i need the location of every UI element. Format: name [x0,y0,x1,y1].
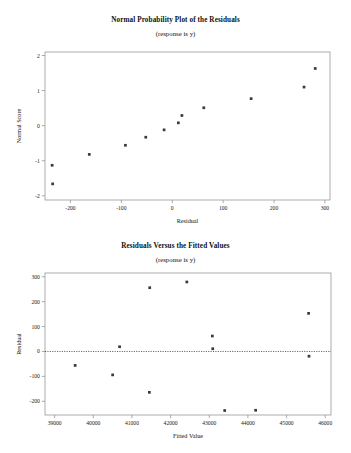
data-point-marker [118,345,121,348]
data-point-marker [124,144,127,147]
residual-plot-canvas: 3900040000410004200043000440004500046000… [0,230,351,453]
y-axis-tick-label: -100 [30,373,40,379]
data-point-marker [163,129,166,132]
y-axis-tick-label: -2 [35,193,40,199]
normal-plot-svg: -200-1000100200300-2-1012ResidualNormal … [0,0,351,230]
y-axis-tick-label: 0 [37,348,40,354]
data-point-marker [308,355,311,358]
data-point-marker [51,183,54,186]
x-axis-tick-label: 39000 [48,420,62,426]
y-axis-tick-label: -1 [35,158,40,164]
x-axis-tick-label: 100 [219,205,228,211]
x-axis-tick-label: 42000 [164,420,178,426]
x-axis-tick-label: -200 [65,205,75,211]
y-axis-tick-label: 100 [31,324,40,330]
y-axis-tick-label: 0 [37,123,40,129]
data-point-marker [111,374,114,377]
data-point-marker [211,347,214,350]
data-point-marker [181,114,184,117]
x-axis-tick-label: 41000 [125,420,139,426]
plot-frame [45,52,330,200]
data-point-marker [307,312,310,315]
data-point-marker [211,335,214,338]
y-axis-tick-label: -200 [30,398,40,404]
normal-plot-canvas: -200-1000100200300-2-1012ResidualNormal … [0,0,351,230]
data-point-marker [223,409,226,412]
data-point-marker [74,364,77,367]
residuals-vs-fitted-figure: Residuals Versus the Fitted Values (resp… [0,230,351,453]
x-axis-tick-label: 200 [270,205,279,211]
y-axis-title: Normal Score [15,108,22,143]
data-point-marker [51,164,54,167]
data-point-marker [314,67,317,70]
x-axis-title: Fitted Value [173,432,203,439]
data-point-marker [144,136,147,139]
y-axis-tick-label: 2 [37,53,40,59]
y-axis-tick-label: 1 [37,88,40,94]
data-point-marker [148,391,151,394]
data-point-marker [148,286,151,289]
residual-plot-svg: 3900040000410004200043000440004500046000… [0,230,351,453]
x-axis-tick-label: 43000 [202,420,216,426]
x-axis-tick-label: 46000 [318,420,332,426]
data-point-marker [185,281,188,284]
data-point-marker [254,409,257,412]
data-point-marker [303,86,306,89]
y-axis-tick-label: 300 [31,274,40,280]
data-point-marker [250,97,253,100]
data-point-marker [177,121,180,124]
x-axis-tick-label: -100 [116,205,126,211]
x-axis-tick-label: 0 [171,205,174,211]
x-axis-tick-label: 300 [321,205,330,211]
x-axis-tick-label: 40000 [86,420,100,426]
x-axis-tick-label: 45000 [280,420,294,426]
data-point-marker [88,153,91,156]
x-axis-title: Residual [177,217,199,224]
data-point-marker [202,106,205,109]
y-axis-title: Residual [15,333,22,355]
normal-probability-plot-figure: Normal Probability Plot of the Residuals… [0,0,351,230]
y-axis-tick-label: 200 [31,299,40,305]
x-axis-tick-label: 44000 [241,420,255,426]
plot-frame [45,273,331,415]
